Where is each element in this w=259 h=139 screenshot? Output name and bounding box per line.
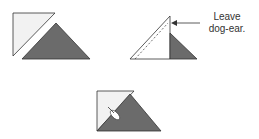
quilting-diagram: Leave dog-ear. — [0, 0, 259, 139]
annotation-line-1: Leave — [204, 11, 250, 23]
dog-ear-annotation: Leave dog-ear. — [204, 11, 250, 35]
dark-triangle-peek — [170, 33, 197, 59]
step-1-figure — [13, 13, 90, 59]
step-2-figure — [130, 16, 200, 59]
white-triangle — [130, 16, 170, 59]
annotation-line-2: dog-ear. — [204, 23, 250, 35]
arrow-head-icon — [171, 20, 177, 26]
step-3-figure — [97, 91, 161, 131]
